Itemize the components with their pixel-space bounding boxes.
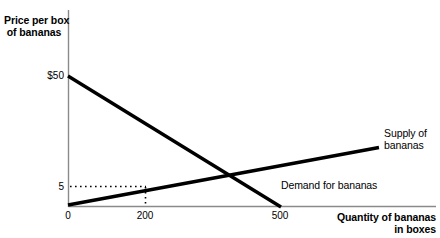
supply-demand-chart: Price per boxof bananas Quantity of bana… xyxy=(0,0,440,238)
x-axis-title-line2: in boxes xyxy=(394,223,436,235)
supply-series-label-line1: Supply of xyxy=(384,127,427,139)
supply-series-label: Supply ofbananas xyxy=(384,127,427,152)
x-axis-title: Quantity of bananasin boxes xyxy=(337,211,436,236)
demand-series-label: Demand for bananas xyxy=(281,179,377,191)
supply-curve xyxy=(68,148,379,206)
y-axis-title: Price per boxof bananas xyxy=(4,14,64,39)
demand-curve xyxy=(68,76,281,207)
chart-plot-area xyxy=(0,0,440,238)
supply-series-label-line2: bananas xyxy=(384,139,424,151)
x-axis-title-line1: Quantity of bananas xyxy=(337,211,436,223)
y-tick-label-5: 5 xyxy=(46,181,64,193)
x-tick-label-500: 500 xyxy=(266,210,294,222)
y-axis-title-line2: of bananas xyxy=(7,26,61,38)
x-tick-label-0: 0 xyxy=(61,210,75,222)
x-tick-label-200: 200 xyxy=(131,210,159,222)
y-tick-label-50: $50 xyxy=(46,70,64,82)
y-axis-title-line1: Price per box xyxy=(4,14,69,26)
